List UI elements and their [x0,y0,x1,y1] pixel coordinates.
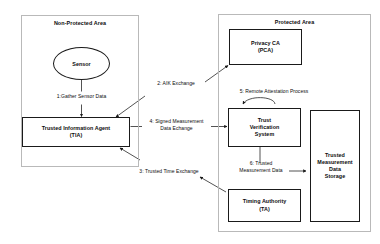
edge-label-signed-measurement-data-exchange: 4: Signed Measurement Data Echange [140,118,213,131]
edge-6-line-2: Measurement Data [239,167,282,173]
tia-line-1: Trusted Information Agent [42,125,110,131]
node-trusted-information-agent-label: Trusted Information Agent (TIA) [42,125,110,139]
architecture-diagram: Non-Protected Area Protected Area Sensor… [0,0,380,244]
edge-label-gather-sensor-data: 1:Gather Sensor Data [31,93,132,100]
tia-line-2: (TIA) [70,132,83,138]
zone-protected-area-label: Protected Area [218,19,371,25]
node-timing-authority[interactable]: Timing Authority (TA) [228,189,301,222]
pca-line-2: (PCA) [258,47,273,53]
tmds-line-1: Trusted [325,152,345,158]
zone-non-protected-area-label: Non-Protected Area [21,20,139,26]
node-trust-verification-system-label: Trust Verification System [250,117,280,138]
tmds-line-4: Storage [325,173,345,179]
node-timing-authority-label: Timing Authority (TA) [243,198,287,212]
pca-line-1: Privacy CA [251,40,280,46]
edge-label-aik-exchange: 2: AIK Exchange [145,80,207,87]
edge-label-remote-attestation-process: 5: Remote Attestation Process [219,88,329,95]
node-trusted-information-agent[interactable]: Trusted Information Agent (TIA) [22,117,130,147]
tvs-line-3: System [255,131,274,137]
node-sensor[interactable]: Sensor [53,47,110,80]
edge-label-trusted-time-exchange: 3: Trusted Time Exchange [134,168,204,175]
node-trust-verification-system[interactable]: Trust Verification System [228,108,301,147]
tvs-line-2: Verification [250,124,280,130]
tmds-line-3: Data [329,166,341,172]
ta-line-1: Timing Authority [243,198,287,204]
tmds-line-2: Measurement [317,159,352,165]
edge-6-line-1: 6: Trusted [250,160,273,166]
node-privacy-ca[interactable]: Privacy CA (PCA) [229,29,302,65]
edge-4-line-1: 4: Signed Measurement [149,118,203,124]
node-sensor-label: Sensor [72,61,90,67]
node-trusted-measurement-data-storage-label: Trusted Measurement Data Storage [317,152,352,181]
tvs-line-1: Trust [258,117,271,123]
node-privacy-ca-label: Privacy CA (PCA) [251,40,280,54]
ta-line-2: (TA) [259,206,270,212]
edge-label-trusted-measurement-data: 6: Trusted Measurement Data [232,160,290,173]
edge-4-line-2: Data Echange [160,125,192,131]
node-trusted-measurement-data-storage[interactable]: Trusted Measurement Data Storage [310,110,360,222]
